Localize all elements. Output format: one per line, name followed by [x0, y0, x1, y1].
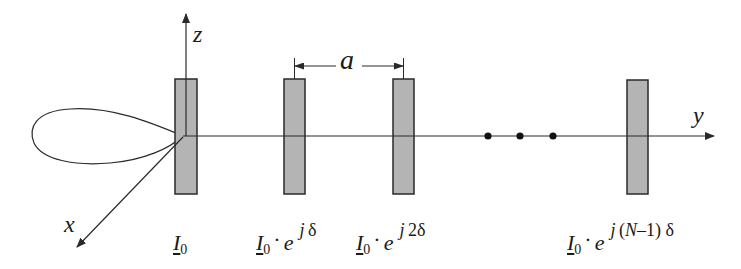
- x-axis: [77, 137, 183, 247]
- exp-base: e: [384, 230, 394, 255]
- spacing-label: a: [336, 46, 358, 74]
- current-label-2: I0·ej 2δ: [356, 232, 426, 254]
- current-subscript: 0: [180, 242, 187, 257]
- multiply-dot: ·: [270, 227, 283, 252]
- multiply-dot: ·: [581, 227, 594, 252]
- z-axis-label: z: [193, 22, 202, 46]
- y-axis-label: y: [693, 103, 704, 127]
- continuation-dot-3: [549, 132, 556, 139]
- continuation-dot-1: [484, 132, 491, 139]
- current-label-n-minus-1: I0·ej (N–1) δ: [567, 232, 674, 254]
- dipole-array-diagram: z y x a I0 I0·ej δ I0·ej 2δ I0·ej (N–1) …: [0, 0, 741, 269]
- phase-exponent: j (N–1) δ: [610, 220, 674, 240]
- radiation-lobe: [32, 109, 183, 164]
- phase-exponent: j δ: [299, 220, 316, 240]
- exp-base: e: [595, 230, 605, 255]
- phase-exponent: j 2δ: [399, 220, 425, 240]
- current-label-0: I0: [173, 232, 187, 254]
- exp-base: e: [284, 230, 294, 255]
- current-label-1: I0·ej δ: [256, 232, 317, 254]
- x-axis-label: x: [64, 212, 75, 236]
- continuation-dot-2: [516, 132, 523, 139]
- dipole-element-n-minus-1: [627, 80, 648, 194]
- multiply-dot: ·: [370, 227, 383, 252]
